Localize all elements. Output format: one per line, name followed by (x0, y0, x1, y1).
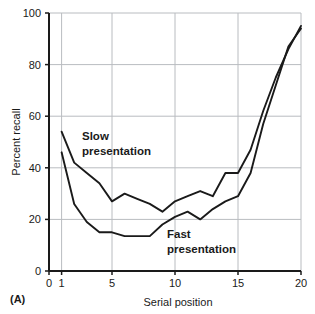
y-tick-label: 60 (29, 110, 41, 122)
x-tick-label: 10 (169, 277, 181, 289)
y-tick-label: 100 (23, 7, 41, 19)
x-tick-label: 5 (109, 277, 115, 289)
x-tick-label: 1 (59, 277, 65, 289)
x-axis-title: Serial position (143, 296, 212, 308)
figure-panel-a: 020406080100 015101520 Percent recall Se… (0, 0, 315, 314)
panel-label: (A) (10, 293, 26, 305)
y-tick-label: 40 (29, 162, 41, 174)
y-tick-label: 20 (29, 213, 41, 225)
plot-background (0, 0, 315, 314)
serial-position-chart: 020406080100 015101520 Percent recall Se… (0, 0, 315, 314)
x-tick-label: 20 (295, 277, 307, 289)
y-tick-label: 0 (35, 265, 41, 277)
fast-label-line2: presentation (167, 243, 236, 255)
y-axis-title: Percent recall (10, 108, 22, 175)
slow-label-line1: Slow (82, 130, 109, 142)
x-tick-label: 15 (232, 277, 244, 289)
fast-label-line1: Fast (167, 228, 191, 240)
y-tick-label: 80 (29, 59, 41, 71)
x-tick-label: 0 (46, 277, 52, 289)
slow-label-line2: presentation (82, 145, 151, 157)
